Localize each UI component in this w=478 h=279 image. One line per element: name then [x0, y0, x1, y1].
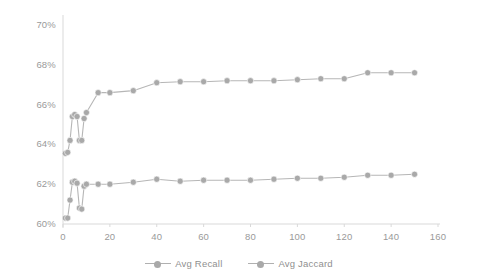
data-point: [318, 175, 324, 181]
data-point: [107, 90, 113, 96]
legend-marker-icon: [145, 259, 171, 269]
data-point: [341, 174, 347, 180]
data-point: [65, 215, 71, 221]
data-point: [83, 109, 89, 115]
data-point: [388, 172, 394, 178]
y-axis-tick-label: 70%: [20, 19, 56, 30]
data-point: [341, 76, 347, 82]
data-point: [271, 176, 277, 182]
x-axis-tick-label: 140: [371, 231, 411, 242]
data-point: [154, 80, 160, 86]
x-axis-tick-label: 80: [231, 231, 271, 242]
data-point: [201, 177, 207, 183]
data-point: [294, 77, 300, 83]
data-point: [201, 79, 207, 85]
data-point: [247, 177, 253, 183]
data-point: [130, 88, 136, 94]
x-axis-tick-label: 20: [90, 231, 130, 242]
data-point: [67, 137, 73, 143]
legend-marker-icon: [248, 259, 274, 269]
data-point: [79, 137, 85, 143]
y-axis-tick-label: 60%: [20, 218, 56, 229]
y-axis-tick-label: 68%: [20, 59, 56, 70]
data-point: [95, 181, 101, 187]
x-axis-tick-label: 100: [277, 231, 317, 242]
legend-label: Avg Jaccard: [278, 258, 332, 269]
data-point: [177, 79, 183, 85]
x-axis-tick-label: 40: [137, 231, 177, 242]
data-point: [81, 115, 87, 121]
chart-legend: Avg Recall Avg Jaccard: [0, 258, 478, 269]
x-axis-tick-label: 160: [418, 231, 458, 242]
data-point: [95, 90, 101, 96]
data-point: [83, 181, 89, 187]
legend-label: Avg Recall: [175, 258, 222, 269]
x-axis-tick-label: 0: [43, 231, 83, 242]
data-point: [318, 76, 324, 82]
data-point: [411, 171, 417, 177]
data-point: [224, 78, 230, 84]
data-point: [67, 197, 73, 203]
x-axis-tick-label: 60: [184, 231, 224, 242]
data-point: [247, 78, 253, 84]
legend-item-avg-recall[interactable]: Avg Recall: [145, 258, 222, 269]
data-point: [74, 180, 80, 186]
data-point: [365, 172, 371, 178]
data-point: [224, 177, 230, 183]
data-point: [65, 149, 71, 155]
data-point: [271, 78, 277, 84]
data-point: [74, 113, 80, 119]
data-point: [177, 178, 183, 184]
chart-container: 60%62%64%66%68%70% 020406080100120140160…: [0, 0, 478, 279]
legend-item-avg-jaccard[interactable]: Avg Jaccard: [248, 258, 332, 269]
data-point: [388, 70, 394, 76]
x-axis-tick-label: 120: [324, 231, 364, 242]
data-point: [154, 176, 160, 182]
y-axis-tick-label: 62%: [20, 178, 56, 189]
data-point: [79, 206, 85, 212]
y-axis-tick-label: 64%: [20, 138, 56, 149]
data-point: [294, 175, 300, 181]
data-point: [107, 181, 113, 187]
data-point: [130, 179, 136, 185]
data-point: [365, 70, 371, 76]
series-line-1: [65, 174, 414, 218]
y-axis-tick-label: 66%: [20, 99, 56, 110]
data-point: [411, 70, 417, 76]
series-line-0: [65, 73, 414, 154]
